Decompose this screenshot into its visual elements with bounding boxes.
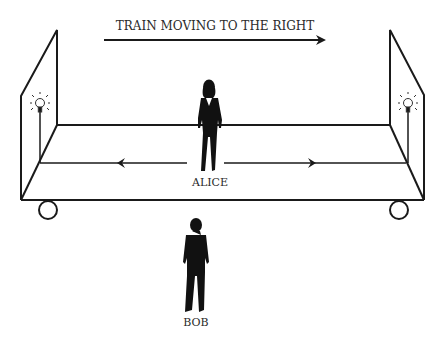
train-car <box>21 30 424 200</box>
title-label: TRAIN MOVING TO THE RIGHT <box>116 19 315 33</box>
bob-label: BOB <box>183 316 208 329</box>
light-bulb-icon <box>30 92 50 163</box>
train-diagram: TRAIN MOVING TO THE RIGHT <box>0 0 445 340</box>
left-wall <box>21 30 57 200</box>
bob-silhouette <box>183 218 209 312</box>
alice-label: ALICE <box>191 176 228 189</box>
right-wall <box>390 30 424 200</box>
wheel-right <box>390 201 408 219</box>
wheel-left <box>39 201 57 219</box>
light-bulb-icon <box>398 92 418 163</box>
